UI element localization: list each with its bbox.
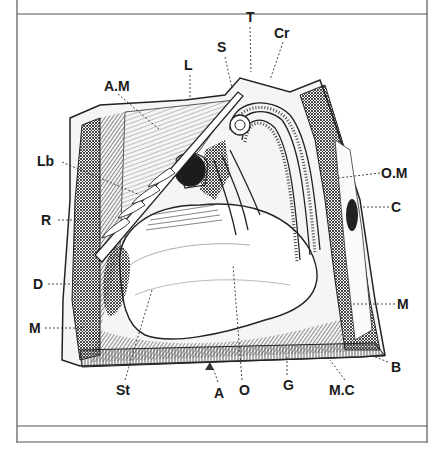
label-S: S <box>217 40 226 54</box>
figure-frame <box>0 0 443 449</box>
label-M-right: M <box>397 297 409 311</box>
label-L: L <box>184 58 193 72</box>
label-D: D <box>33 277 43 291</box>
label-MC: M.C <box>329 383 355 397</box>
label-A: A <box>214 386 224 400</box>
specimen-illustration <box>62 78 385 370</box>
label-C: C <box>391 200 401 214</box>
label-Lb: Lb <box>37 154 54 168</box>
label-OM: O.M <box>381 166 407 180</box>
label-St: St <box>116 383 130 397</box>
label-M-left: M <box>29 321 41 335</box>
label-R: R <box>41 213 51 227</box>
label-O: O <box>239 383 250 397</box>
label-T: T <box>246 10 255 24</box>
label-G: G <box>283 378 294 392</box>
label-Cr: Cr <box>274 26 290 40</box>
label-AM: A.M <box>104 79 130 93</box>
label-B: B <box>391 360 401 374</box>
